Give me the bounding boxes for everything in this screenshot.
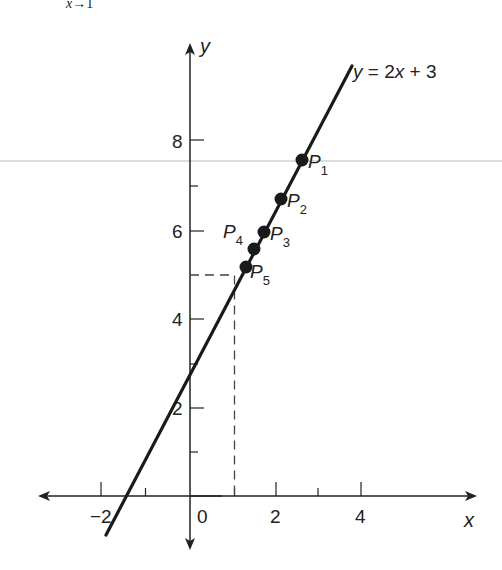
point-p2: [275, 193, 288, 206]
label-p1: P1: [308, 151, 328, 178]
x-tick-label-4: 4: [355, 506, 366, 527]
x-tick-label-neg2: −2: [90, 506, 112, 527]
label-p4: P4: [223, 221, 243, 248]
y-axis-label: y: [198, 35, 211, 57]
y-tick-label-6: 6: [172, 221, 183, 242]
point-p4: [248, 243, 261, 256]
dashed-guide: [190, 275, 235, 496]
label-p2: P2: [287, 190, 307, 217]
point-p1: [296, 154, 309, 167]
label-p3: P3: [270, 223, 290, 250]
x-tick-label-2: 2: [270, 506, 281, 527]
line-y-2x-3: [106, 66, 352, 535]
y-tick-label-4: 4: [172, 309, 183, 330]
x-tick-label-0: 0: [197, 506, 208, 527]
x-ticks: [101, 482, 361, 496]
x-axis-label: x: [463, 509, 475, 531]
y-ticks: [190, 140, 204, 452]
y-tick-label-8: 8: [172, 131, 183, 152]
equation-label: y = 2x + 3: [351, 61, 436, 82]
point-p3: [258, 226, 271, 239]
diagram-canvas: x→1 −2 0 2 4 x 2 4 6 8 y y = 2x + 3: [0, 0, 502, 570]
caption-fragment: x→1: [65, 0, 93, 11]
label-p5: P5: [250, 261, 270, 288]
